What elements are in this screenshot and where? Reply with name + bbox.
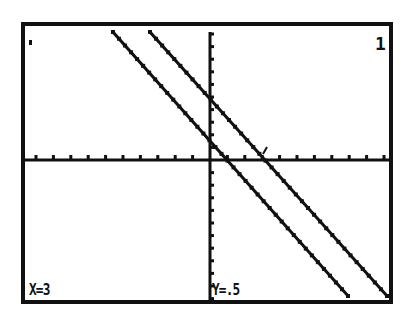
- busy-indicator-dot: [29, 40, 32, 45]
- trace-y-readout: Y=.5: [212, 283, 239, 298]
- axes: [25, 32, 389, 300]
- graph-lines: [111, 30, 389, 298]
- trace-x-readout: X=3: [29, 283, 49, 298]
- screen-frame: [23, 24, 391, 302]
- calculator-graph-screen: 1 X=3 Y=.5: [0, 0, 410, 323]
- trace-cursor-icon: [263, 147, 267, 154]
- equation-index-label: 1: [375, 35, 385, 53]
- graph-canvas: [0, 0, 410, 323]
